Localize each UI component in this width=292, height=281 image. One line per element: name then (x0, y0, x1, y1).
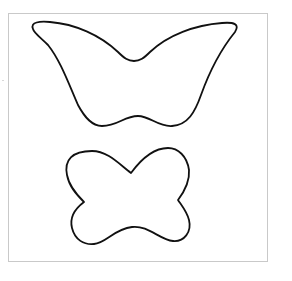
large-wing-outline (32, 22, 236, 126)
template-drawing (0, 0, 292, 281)
small-bow-outline (66, 148, 189, 244)
